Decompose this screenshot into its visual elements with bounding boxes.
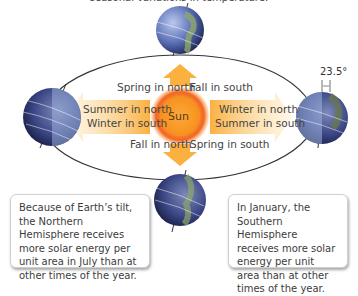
label-fall-north: Fall in north bbox=[130, 138, 192, 151]
note-southern-hemisphere: In January, the Southern Hemisphere rece… bbox=[228, 194, 348, 268]
sun-label: Sun bbox=[168, 110, 189, 123]
globe-top-icon bbox=[156, 3, 204, 56]
label-winter-south: Winter in south bbox=[87, 117, 167, 130]
globe-left-icon bbox=[23, 84, 81, 148]
tilt-angle-label: 23.5° bbox=[320, 66, 347, 77]
label-spring-north: Spring in north bbox=[117, 81, 195, 94]
globe-right-icon bbox=[296, 80, 348, 148]
note-northern-hemisphere: Because of Earth’s tilt, the Northern He… bbox=[10, 194, 150, 268]
label-summer-south: Summer in south bbox=[215, 117, 305, 130]
label-winter-north: Winter in north bbox=[219, 103, 298, 116]
label-summer-north: Summer in north bbox=[83, 103, 172, 116]
label-fall-south: Fall in south bbox=[190, 81, 253, 94]
label-spring-south: Spring in south bbox=[190, 138, 269, 151]
